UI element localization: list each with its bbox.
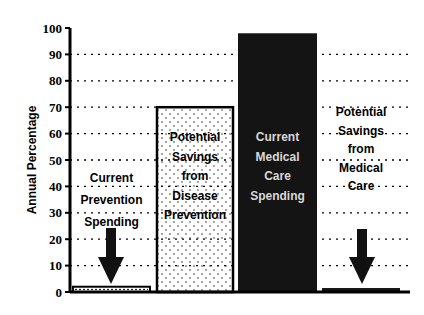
y-tick-label: 20 <box>49 232 62 247</box>
bar-label: from <box>182 169 209 183</box>
bar-label: Potential <box>170 130 221 144</box>
down-arrow-icon <box>349 229 375 284</box>
bar-label: Prevention <box>80 193 142 207</box>
bar-label: Care <box>264 169 291 183</box>
y-tick-label: 50 <box>49 153 62 168</box>
bar-label: Savings <box>172 150 218 164</box>
bar-label: Savings <box>338 124 384 138</box>
bar-label: from <box>348 142 375 156</box>
y-tick-label: 80 <box>49 73 62 88</box>
y-axis-label: Annual Percentage <box>25 105 39 214</box>
y-tick-label: 70 <box>49 100 62 115</box>
bar-label: Potential <box>336 105 387 119</box>
bar-label: Medical <box>255 150 299 164</box>
bar-label: Medical <box>339 161 383 175</box>
bar-chart: CurrentPreventionSpendingPotentialSaving… <box>0 0 424 315</box>
bar-label: Spending <box>250 189 305 203</box>
bar-3: CurrentMedicalCareSpending <box>238 33 317 292</box>
y-tick-label: 0 <box>56 285 63 300</box>
bar-label: Current <box>256 130 299 144</box>
bar-label: Current <box>90 171 133 185</box>
down-arrow-icon <box>98 228 124 284</box>
y-tick-label: 100 <box>43 21 63 36</box>
bar-2: PotentialSavingsfromDiseasePrevention <box>157 107 233 292</box>
bar-label: Care <box>348 179 375 193</box>
y-tick-label: 40 <box>49 179 62 194</box>
y-tick-label: 30 <box>49 205 62 220</box>
y-tick-label: 60 <box>49 126 62 141</box>
y-tick-label: 90 <box>49 47 62 62</box>
bar-label: Prevention <box>164 208 226 222</box>
bars: CurrentPreventionSpendingPotentialSaving… <box>73 33 400 292</box>
bar-label: Spending <box>84 215 139 229</box>
y-tick-label: 10 <box>49 258 62 273</box>
bar-label: Disease <box>172 189 218 203</box>
